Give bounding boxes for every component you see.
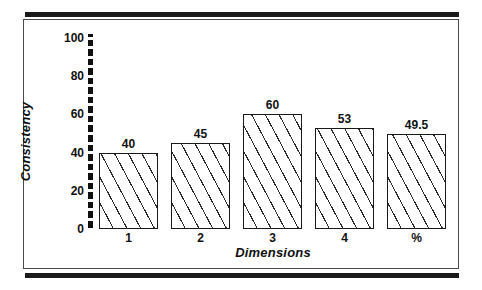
figure-frame (23, 19, 459, 269)
figure-page: 020406080100 Consistency Dimensions 4014… (0, 0, 482, 290)
page-rule-top (25, 12, 459, 17)
page-rule-bottom (25, 273, 459, 278)
